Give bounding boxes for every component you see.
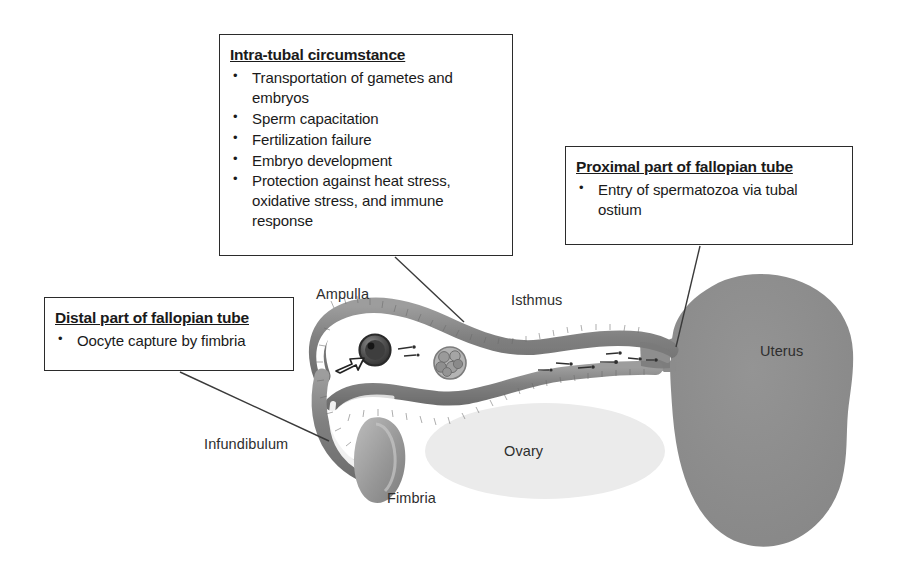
bullet-icon: •	[579, 179, 583, 196]
callout-bullet-item: • Sperm capacitation	[230, 109, 500, 129]
bullet-icon: •	[58, 330, 62, 347]
bullet-text: Transportation of gametes and embryos	[252, 69, 453, 106]
callout-bullet-item: • Embryo development	[230, 151, 500, 171]
bullet-text: Sperm capacitation	[252, 110, 379, 127]
bullet-text: Oocyte capture by fimbria	[77, 332, 245, 349]
bullet-text: Fertilization failure	[252, 131, 372, 148]
callout-title: Proximal part of fallopian tube	[576, 157, 840, 176]
callout-proximal-part-of-fallopian-tube[interactable]: Proximal part of fallopian tube • Entry …	[565, 146, 853, 245]
label-ampulla: Ampulla	[316, 286, 369, 302]
label-isthmus: Isthmus	[511, 292, 562, 308]
bullet-text: Protection against heat stress, oxidativ…	[252, 172, 451, 229]
callout-title: Intra-tubal circumstance	[230, 45, 500, 64]
bullet-text: Entry of spermatozoa via tubal ostium	[598, 181, 798, 218]
callout-bullet-list: • Transportation of gametes and embryos …	[230, 68, 500, 230]
oocyte	[360, 335, 391, 366]
bullet-icon: •	[233, 129, 237, 146]
bullet-icon: •	[233, 170, 237, 187]
uterus-shape	[656, 274, 853, 547]
bullet-text: Embryo development	[252, 152, 392, 169]
label-fimbria: Fimbria	[387, 490, 436, 506]
bullet-icon: •	[233, 150, 237, 167]
callout-distal-part-of-fallopian-tube[interactable]: Distal part of fallopian tube • Oocyte c…	[44, 297, 294, 371]
callout-bullet-item: • Fertilization failure	[230, 130, 500, 150]
ovary-shape	[425, 403, 665, 499]
callout-title: Distal part of fallopian tube	[55, 308, 281, 327]
label-ovary: Ovary	[504, 443, 543, 459]
callout-bullet-item: • Transportation of gametes and embryos	[230, 68, 500, 108]
bullet-icon: •	[233, 108, 237, 125]
bullet-icon: •	[233, 67, 237, 84]
leader-distal	[180, 372, 329, 441]
callout-bullet-list: • Entry of spermatozoa via tubal ostium	[576, 180, 840, 220]
diagram-canvas: Intra-tubal circumstance • Transportatio…	[0, 0, 916, 562]
callout-bullet-item: • Protection against heat stress, oxidat…	[230, 171, 500, 230]
label-uterus: Uterus	[760, 343, 803, 359]
oocyte-capture-arrow	[336, 358, 364, 373]
callout-bullet-item: • Oocyte capture by fimbria	[55, 331, 281, 351]
label-infundibulum: Infundibulum	[204, 436, 288, 452]
callout-bullet-list: • Oocyte capture by fimbria	[55, 331, 281, 351]
callout-bullet-item: • Entry of spermatozoa via tubal ostium	[576, 180, 840, 220]
embryo	[434, 347, 466, 379]
callout-intra-tubal-circumstance[interactable]: Intra-tubal circumstance • Transportatio…	[219, 34, 513, 256]
